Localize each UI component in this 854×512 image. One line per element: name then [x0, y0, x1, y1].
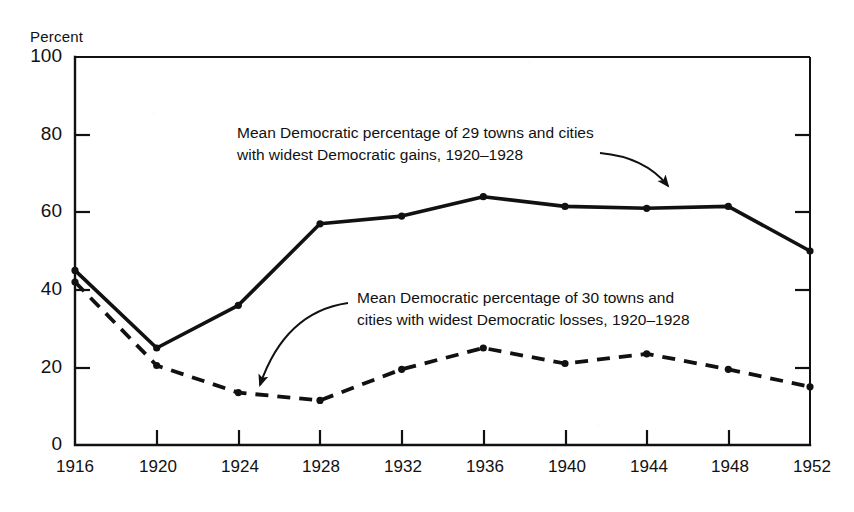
data-point [806, 247, 813, 254]
data-point [480, 344, 487, 351]
data-point [153, 344, 160, 351]
series-markers-gains [71, 193, 813, 352]
data-point [643, 205, 650, 212]
data-point [316, 220, 323, 227]
axis-frame [75, 57, 810, 445]
data-point [725, 203, 732, 210]
annotation-arrows [260, 153, 668, 385]
data-point [398, 366, 405, 373]
x-axis-ticks [157, 430, 729, 445]
data-point [316, 397, 323, 404]
plot-area [0, 0, 854, 512]
arrow-to-losses-line [260, 303, 348, 385]
data-point [71, 278, 78, 285]
data-point [398, 213, 405, 220]
data-point [235, 389, 242, 396]
series-line-losses [75, 282, 810, 400]
y-axis-ticks [75, 135, 90, 368]
data-point [725, 366, 732, 373]
data-point [235, 302, 242, 309]
data-point [561, 360, 568, 367]
arrow-to-gains-line [600, 153, 668, 186]
series-group [71, 193, 813, 404]
data-point [71, 267, 78, 274]
data-point [561, 203, 568, 210]
chart-figure: Percent 100 80 60 40 20 0 1916 1920 1924… [0, 0, 854, 512]
data-point [480, 193, 487, 200]
data-point [643, 350, 650, 357]
data-point [153, 362, 160, 369]
data-point [806, 383, 813, 390]
series-markers-losses [71, 278, 813, 404]
series-line-gains [75, 197, 810, 348]
axis-spines [75, 57, 810, 445]
